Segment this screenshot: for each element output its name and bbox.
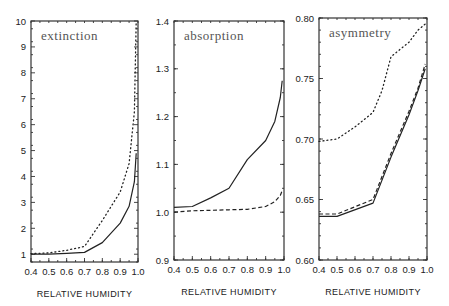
x-tick-label: 1.0 <box>277 264 290 275</box>
series-dashed-line <box>174 191 282 213</box>
y-tick-label: 1.0 <box>156 207 169 218</box>
panel-title: asymmetry <box>329 25 391 40</box>
y-tick-label: 3 <box>21 197 26 208</box>
y-tick-label: 1 <box>21 249 26 260</box>
y-tick-label: 0.75 <box>296 73 315 84</box>
y-tick-label: 4 <box>21 171 26 182</box>
x-tick-label: 0.7 <box>78 266 91 277</box>
y-tick-label: 0.65 <box>296 194 315 205</box>
x-tick-label: 1.0 <box>131 266 144 277</box>
x-tick-label: 0.4 <box>167 264 180 275</box>
y-tick-label: 2 <box>21 223 26 234</box>
x-tick-label: 1.0 <box>420 264 433 275</box>
x-tick-label: 0.8 <box>96 266 109 277</box>
x-tick-label: 0.9 <box>259 264 272 275</box>
y-tick-label: 1.2 <box>156 111 169 122</box>
x-tick-label: 0.9 <box>402 264 415 275</box>
y-tick-label: 0.80 <box>296 13 315 24</box>
series-solid-line <box>31 153 136 254</box>
y-tick-label: 9 <box>21 41 26 52</box>
axes-frame <box>31 21 138 262</box>
y-tick-label: 8 <box>21 67 26 78</box>
y-tick-label: 6 <box>21 119 26 130</box>
panel-absorption: 0.91.01.11.21.31.40.40.50.60.70.80.91.0a… <box>156 16 291 298</box>
x-tick-label: 0.4 <box>24 266 37 277</box>
y-tick-label: 0.60 <box>296 255 315 266</box>
panel-asymmetry: 0.600.650.700.750.800.40.50.60.70.80.91.… <box>296 13 434 298</box>
figure: 123456789100.40.50.60.70.80.91.0extincti… <box>0 0 449 306</box>
series-dotted-line <box>319 24 425 141</box>
series-solid-line <box>319 69 425 217</box>
y-tick-label: 5 <box>21 145 26 156</box>
x-axis-title: RELATIVE HUMIDITY <box>37 289 133 299</box>
x-tick-label: 0.7 <box>222 264 235 275</box>
x-tick-label: 0.8 <box>241 264 254 275</box>
panel-title: absorption <box>184 28 244 43</box>
x-axis-title: RELATIVE HUMIDITY <box>181 287 277 297</box>
panel-extinction: 123456789100.40.50.60.70.80.91.0extincti… <box>15 16 144 300</box>
x-tick-label: 0.5 <box>42 266 55 277</box>
y-tick-label: 10 <box>15 16 26 27</box>
y-tick-label: 0.70 <box>296 134 315 145</box>
x-tick-label: 0.6 <box>348 264 361 275</box>
series-dotted-line <box>31 21 136 254</box>
x-tick-label: 0.6 <box>60 266 73 277</box>
panel-title: extinction <box>41 28 98 43</box>
x-tick-label: 0.7 <box>366 264 379 275</box>
y-tick-label: 7 <box>21 93 26 104</box>
x-tick-label: 0.6 <box>204 264 217 275</box>
axes-frame <box>174 21 284 260</box>
x-tick-label: 0.8 <box>384 264 397 275</box>
y-tick-label: 1.1 <box>156 159 169 170</box>
x-tick-label: 0.9 <box>114 266 127 277</box>
series-solid-line <box>174 81 282 208</box>
y-tick-label: 1.4 <box>156 16 169 27</box>
x-tick-label: 0.4 <box>312 264 325 275</box>
x-tick-label: 0.5 <box>330 264 343 275</box>
x-axis-title: RELATIVE HUMIDITY <box>325 287 421 297</box>
y-tick-label: 1.3 <box>156 63 169 74</box>
x-tick-label: 0.5 <box>186 264 199 275</box>
